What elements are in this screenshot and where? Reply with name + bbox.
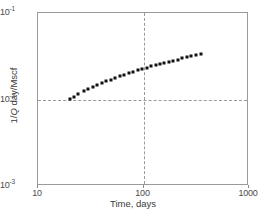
data-point: [82, 90, 85, 93]
y-tick-label: 10-1: [0, 7, 15, 17]
data-point: [109, 78, 112, 81]
x-tick-label: 10: [32, 188, 42, 198]
data-point: [132, 70, 135, 73]
data-point: [114, 76, 117, 79]
data-point: [167, 60, 170, 63]
data-point: [119, 75, 122, 78]
data-point: [158, 63, 161, 66]
data-point: [163, 61, 166, 64]
y-axis-title-pre: 1/: [8, 116, 19, 124]
data-point: [91, 86, 94, 89]
y-tick-label: 10-3: [0, 180, 15, 190]
data-point: [123, 73, 126, 76]
y-axis-title-post: day/Mscf: [8, 68, 19, 109]
data-point: [195, 54, 198, 57]
data-point: [172, 59, 175, 62]
y-tick-exponent: -1: [10, 5, 15, 12]
data-point: [87, 88, 90, 91]
x-tick-label: 1000: [238, 188, 257, 198]
x-tick-label: 100: [135, 188, 149, 198]
data-point: [100, 82, 103, 85]
data-point: [150, 65, 153, 68]
data-point: [141, 68, 144, 71]
y-tick-mantissa: 10: [0, 180, 10, 190]
y-axis-title: 1/Q day/Mscf: [8, 41, 19, 151]
data-point: [95, 84, 98, 87]
data-point: [68, 98, 71, 101]
data-point: [136, 69, 139, 72]
reference-line-vertical: [144, 13, 145, 184]
data-point: [190, 55, 193, 58]
y-tick-mantissa: 10: [0, 7, 10, 17]
y-tick-exponent: -3: [10, 178, 15, 185]
data-point: [185, 56, 188, 59]
data-point: [73, 95, 76, 98]
data-point: [181, 57, 184, 60]
y-axis-title-symbol: Q: [8, 108, 19, 115]
plot-area: [37, 12, 248, 185]
data-point: [154, 64, 157, 67]
data-point: [104, 80, 107, 83]
data-point: [77, 93, 80, 96]
chart-figure: 10-110-210-3 101001000 Time, days 1/Q da…: [0, 0, 266, 213]
x-axis-title: Time, days: [0, 198, 266, 209]
data-point: [145, 66, 148, 69]
data-point: [176, 58, 179, 61]
data-point: [128, 72, 131, 75]
data-point: [199, 53, 202, 56]
